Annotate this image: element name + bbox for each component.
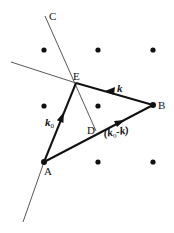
label-k0-minus-k: (ko-k) [103,124,130,141]
label-c: C [49,10,56,22]
label-a: A [44,165,52,177]
label-e: E [73,70,80,82]
ewald-diagram: C E B A D k k0 (ko-k) [0,0,174,233]
point-b-dot [150,102,156,108]
diagram-canvas: C E B A D k k0 (ko-k) [0,0,174,233]
line-below-a [23,162,44,222]
label-k: k [117,82,123,94]
line-c-through-e-to-d [45,16,96,131]
arrowhead-k0-icon [57,111,67,123]
label-k0: k0 [45,116,55,130]
vector-k0-minus-k-ab [44,105,153,162]
vector-k-be [76,83,153,105]
label-b: B [158,99,165,111]
line-left-to-e [11,62,76,83]
label-d: D [87,124,95,136]
arrowhead-k-icon [105,87,115,95]
lattice-dots [41,47,156,165]
